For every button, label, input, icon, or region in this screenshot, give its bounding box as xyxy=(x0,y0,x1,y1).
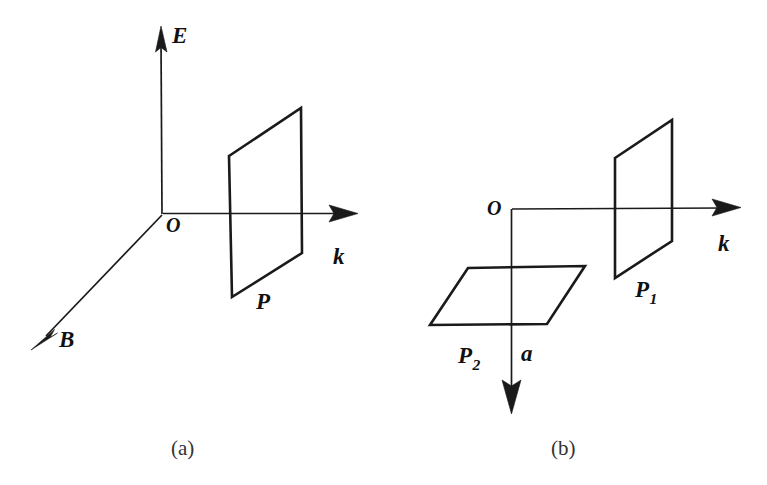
axis-E xyxy=(156,26,168,214)
panel-caption-a: (a) xyxy=(171,438,194,459)
plane-label-P: P xyxy=(256,290,270,313)
axis-k-b-shaft xyxy=(512,208,723,209)
origin-label-a: O xyxy=(166,215,180,235)
plane-P xyxy=(229,108,302,297)
panel-caption-b: (b) xyxy=(551,438,576,459)
axis-k-b xyxy=(512,199,741,216)
plane-P2 xyxy=(430,266,585,325)
figure-container: E O B k P (a) O k a P1 P2 (b) xyxy=(0,0,767,485)
plane-label-P2: P2 xyxy=(458,344,480,372)
plane-P1 xyxy=(615,120,672,278)
plane-label-P1-subscript: 1 xyxy=(650,290,658,307)
axis-label-k-a: k xyxy=(333,245,345,268)
figure-canvas xyxy=(0,0,767,485)
axis-label-a: a xyxy=(521,342,533,365)
axis-B xyxy=(31,215,162,350)
plane-label-P2-subscript: 2 xyxy=(473,356,481,373)
origin-label-b: O xyxy=(487,198,501,218)
plane-label-P2-base: P xyxy=(458,343,472,368)
panel-a xyxy=(31,26,358,350)
axis-B-arrowhead xyxy=(31,330,58,351)
axis-a xyxy=(502,209,521,414)
axis-label-B: B xyxy=(59,328,74,351)
plane-label-P1-base: P xyxy=(635,277,649,302)
plane-label-P1: P1 xyxy=(635,278,657,306)
axis-E-shaft xyxy=(161,40,162,214)
axis-label-E: E xyxy=(172,24,187,47)
axis-k-a xyxy=(163,205,358,222)
axis-label-k-b: k xyxy=(718,232,730,255)
axis-B-shaft xyxy=(46,215,162,336)
